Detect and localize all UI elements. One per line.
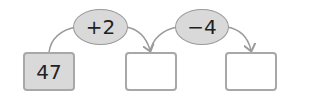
start-value: 47 <box>36 60 61 84</box>
operation-label: −4 <box>187 15 216 39</box>
operation-plus-2: +2 <box>73 9 128 45</box>
start-box: 47 <box>23 52 75 91</box>
answer-box-1[interactable] <box>125 52 177 91</box>
answer-box-2[interactable] <box>225 52 277 91</box>
operation-minus-4: −4 <box>175 9 229 45</box>
operation-label: +2 <box>86 15 115 39</box>
arc-2-out <box>227 27 251 50</box>
arc-1-in <box>49 27 76 52</box>
arc-2-in <box>150 27 177 52</box>
arc-1-out <box>126 27 150 50</box>
